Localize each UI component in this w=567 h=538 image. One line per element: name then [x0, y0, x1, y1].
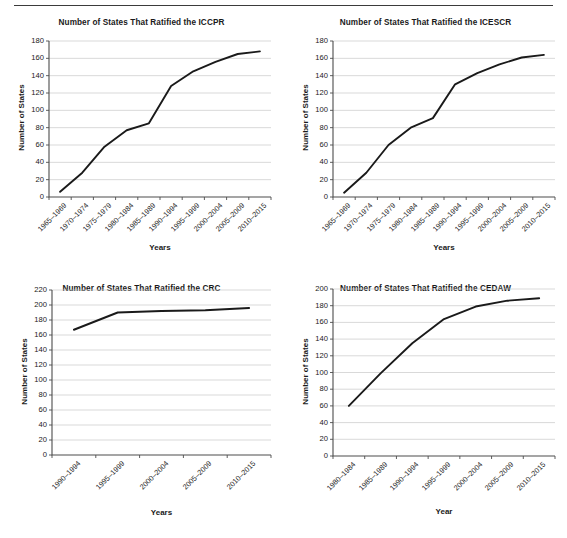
- y-tick-label: 200: [297, 284, 328, 293]
- y-tick-label: 0: [16, 450, 47, 459]
- y-tick-label: 0: [297, 192, 328, 201]
- plot-area-iccpr: 0204060801001201401601801965–19691970–19…: [0, 4, 283, 273]
- y-tick-label: 20: [297, 434, 328, 443]
- y-axis-title: Number of States: [20, 316, 29, 426]
- y-tick-label: 160: [13, 53, 44, 62]
- y-tick-label: 180: [13, 36, 44, 45]
- y-tick-label: 160: [297, 53, 328, 62]
- x-axis-title: Years: [333, 243, 555, 252]
- y-axis-title: Number of States: [301, 316, 310, 426]
- x-axis-title: Years: [52, 508, 271, 517]
- chart-panel-icescr: Number of States That Ratified the ICESC…: [284, 4, 567, 273]
- y-tick-label: 20: [13, 175, 44, 184]
- y-axis-title: Number of States: [301, 63, 310, 173]
- chart-panel-iccpr: Number of States That Ratified the ICCPR…: [0, 4, 283, 273]
- y-tick-label: 0: [13, 192, 44, 201]
- plot-area-crc: 0204060801001201401601802002201990–19941…: [0, 270, 283, 538]
- y-axis-title: Number of States: [17, 63, 26, 173]
- x-axis-title: Years: [49, 243, 271, 252]
- chart-panel-crc: Number of States That Ratified the CRC 0…: [0, 270, 283, 538]
- data-series-line: [60, 51, 260, 191]
- y-tick-label: 180: [297, 36, 328, 45]
- x-axis-title: Year: [333, 507, 555, 516]
- plot-area-cedaw: 0204060801001201401601802001980–19841985…: [284, 270, 567, 538]
- chart-panel-cedaw: Number of States That Ratified the CEDAW…: [284, 270, 567, 538]
- y-tick-label: 200: [16, 300, 47, 309]
- y-tick-label: 220: [16, 285, 47, 294]
- data-series-line: [74, 308, 249, 330]
- axis-lines: [52, 290, 271, 455]
- plot-area-icescr: 0204060801001201401601801965–19691970–19…: [284, 4, 567, 273]
- data-series-line: [349, 298, 539, 406]
- y-tick-label: 180: [297, 301, 328, 310]
- figure-page: Number of States That Ratified the ICCPR…: [0, 0, 567, 538]
- y-tick-label: 20: [297, 175, 328, 184]
- y-tick-label: 20: [16, 435, 47, 444]
- y-tick-label: 0: [297, 451, 328, 460]
